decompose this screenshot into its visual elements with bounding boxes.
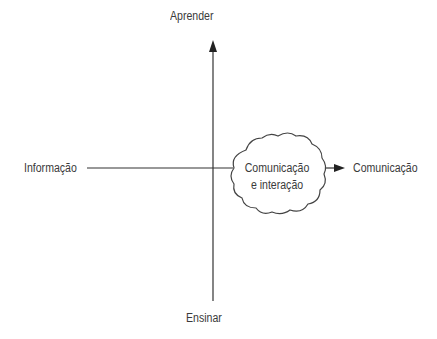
axis-label-right: Comunicação [353, 161, 418, 175]
axis-label-top: Aprender [170, 9, 213, 23]
axis-label-bottom: Ensinar [186, 311, 222, 325]
arrow-right-icon [334, 164, 345, 172]
axis-label-left: Informação [24, 161, 77, 175]
arrow-up-icon [209, 40, 217, 52]
center-node-label: Comunicação e interação [227, 160, 327, 194]
center-node-line2: e interação [233, 177, 321, 194]
center-node-line1: Comunicação [233, 160, 321, 177]
